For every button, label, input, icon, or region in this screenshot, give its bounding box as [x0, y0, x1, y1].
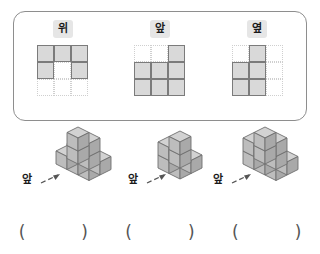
- views-row: 위 앞 옆: [14, 12, 306, 120]
- grid-cell-filled: [54, 45, 71, 62]
- cube-figure-1: 앞: [22, 124, 132, 216]
- grid-cell-filled: [37, 62, 54, 79]
- view-side-grid: [232, 45, 283, 96]
- grid-cell-filled: [232, 62, 249, 79]
- cube-figure-3-front-label: 앞: [213, 174, 223, 186]
- cube-figure-3-svg: [213, 124, 320, 216]
- top-cropped-text: [4, 0, 124, 7]
- view-front-label: 앞: [150, 20, 170, 38]
- grid-cell-filled: [134, 79, 151, 96]
- answers-row: ( ) ( ) ( ): [0, 216, 320, 248]
- grid-cell-filled: [134, 62, 151, 79]
- cube-figure-1-svg: [22, 124, 132, 216]
- answer-blank-3[interactable]: ( ): [213, 216, 320, 248]
- grid-cell-empty: [54, 62, 71, 79]
- view-top: 위: [20, 20, 106, 96]
- cube-figure-1-arrow-icon: [40, 172, 66, 186]
- answer-blank-1[interactable]: ( ): [0, 216, 107, 248]
- answer-1-close-paren: ): [81, 222, 88, 242]
- grid-cell-filled: [151, 62, 168, 79]
- grid-cell-empty: [54, 79, 71, 96]
- answer-blank-2[interactable]: ( ): [107, 216, 214, 248]
- view-front-grid: [134, 45, 185, 96]
- grid-cell-empty: [232, 45, 249, 62]
- answer-3-close-paren: ): [295, 222, 302, 242]
- grid-cell-filled: [37, 45, 54, 62]
- cube-figure-1-front-label: 앞: [22, 174, 32, 186]
- grid-cell-filled: [249, 45, 266, 62]
- answer-2-close-paren: ): [188, 222, 195, 242]
- grid-cell-filled: [232, 79, 249, 96]
- grid-cell-filled: [71, 62, 88, 79]
- view-side: 옆: [214, 20, 300, 96]
- view-front: 앞: [117, 20, 203, 96]
- grid-cell-empty: [37, 79, 54, 96]
- grid-cell-empty: [71, 79, 88, 96]
- grid-cell-empty: [134, 45, 151, 62]
- grid-cell-filled: [168, 79, 185, 96]
- grid-cell-filled: [249, 62, 266, 79]
- view-side-label: 옆: [247, 20, 267, 38]
- grid-cell-filled: [71, 45, 88, 62]
- cube-figure-3: 앞: [213, 124, 320, 216]
- grid-cell-filled: [249, 79, 266, 96]
- answer-1-open-paren: (: [19, 222, 26, 242]
- view-top-grid: [37, 45, 88, 96]
- cube-figure-3-arrow-icon: [231, 172, 257, 186]
- answer-2-open-paren: (: [125, 222, 132, 242]
- cube-figure-2-arrow-icon: [146, 172, 172, 186]
- grid-cell-filled: [168, 45, 185, 62]
- grid-cell-filled: [151, 79, 168, 96]
- views-panel: 위 앞 옆: [13, 11, 307, 121]
- grid-cell-empty: [151, 45, 168, 62]
- grid-cell-filled: [168, 62, 185, 79]
- cube-figure-2-front-label: 앞: [128, 174, 138, 186]
- grid-cell-empty: [266, 79, 283, 96]
- view-top-label: 위: [53, 20, 73, 38]
- grid-cell-empty: [266, 45, 283, 62]
- grid-cell-empty: [266, 62, 283, 79]
- answer-3-open-paren: (: [232, 222, 239, 242]
- figures-row: 앞 앞 앞: [0, 124, 320, 216]
